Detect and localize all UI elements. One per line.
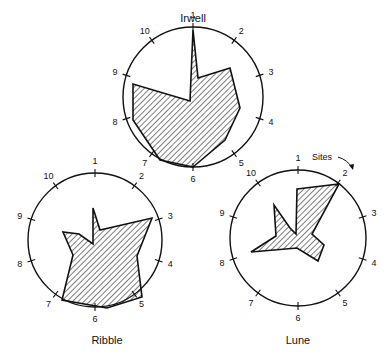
site-label: 3 bbox=[268, 67, 273, 77]
arrow-icon bbox=[338, 157, 352, 168]
site-label: 3 bbox=[168, 211, 173, 221]
site-label: 7 bbox=[142, 158, 147, 168]
site-tick bbox=[232, 150, 237, 156]
river-title: Ribble bbox=[91, 334, 122, 346]
data-polygon bbox=[133, 30, 240, 167]
site-label: 10 bbox=[140, 26, 150, 36]
sites-label: Sites bbox=[312, 152, 333, 162]
site-label: 2 bbox=[139, 171, 144, 181]
radar-lune: 12345678910Lune bbox=[219, 153, 376, 346]
site-label: 8 bbox=[17, 259, 22, 269]
site-tick bbox=[150, 150, 155, 156]
site-tick bbox=[256, 180, 261, 186]
site-label: 1 bbox=[295, 153, 300, 163]
site-label: 10 bbox=[44, 171, 54, 181]
site-label: 5 bbox=[239, 158, 244, 168]
data-polygon bbox=[62, 208, 152, 308]
river-title: Irwell bbox=[180, 12, 206, 24]
site-label: 7 bbox=[46, 299, 51, 309]
site-label: 9 bbox=[113, 67, 118, 77]
site-label: 8 bbox=[113, 117, 118, 127]
river-title: Lune bbox=[286, 334, 310, 346]
site-label: 9 bbox=[219, 208, 224, 218]
site-tick bbox=[256, 290, 261, 296]
site-label: 10 bbox=[246, 168, 256, 178]
radar-irwell: 12345678910Irwell bbox=[113, 10, 274, 184]
sites-annotation: Sites bbox=[312, 152, 354, 170]
site-label: 6 bbox=[92, 314, 97, 324]
site-label: 2 bbox=[239, 26, 244, 36]
radar-ribble: 12345678910Ribble bbox=[17, 156, 172, 346]
site-tick bbox=[53, 291, 58, 297]
site-label: 5 bbox=[139, 299, 144, 309]
site-label: 4 bbox=[372, 258, 377, 268]
site-label: 4 bbox=[268, 117, 273, 127]
site-tick bbox=[53, 183, 58, 189]
site-tick bbox=[232, 37, 237, 43]
site-label: 2 bbox=[343, 168, 348, 178]
site-label: 6 bbox=[295, 313, 300, 323]
site-tick bbox=[336, 290, 341, 296]
site-label: 7 bbox=[248, 298, 253, 308]
site-tick bbox=[132, 183, 137, 189]
site-label: 3 bbox=[372, 208, 377, 218]
site-label: 4 bbox=[168, 259, 173, 269]
site-label: 1 bbox=[92, 156, 97, 166]
site-label: 5 bbox=[343, 298, 348, 308]
radar-diagram-figure: 12345678910Irwell12345678910Ribble123456… bbox=[0, 0, 391, 360]
site-label: 6 bbox=[190, 174, 195, 184]
site-label: 8 bbox=[219, 258, 224, 268]
data-polygon bbox=[251, 184, 339, 261]
site-tick bbox=[150, 37, 155, 43]
site-label: 9 bbox=[17, 211, 22, 221]
